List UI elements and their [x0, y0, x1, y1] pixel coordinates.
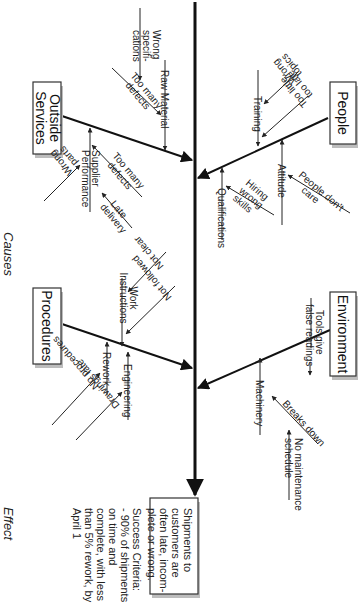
outside-services-label-l2: Services [33, 91, 49, 145]
effect-problem-l4: plete or wrong. [146, 508, 158, 581]
procedures-label: Procedures [39, 290, 55, 362]
engineering-label: Engineering [122, 364, 133, 417]
fishbone-diagram: Outside Services Raw Material Wrong spec… [0, 0, 360, 605]
effect-problem-l3: often late, incom- [158, 508, 170, 593]
branch-environment: Environment Tools give false readings Ma… [198, 292, 358, 511]
success-criteria-l2: - 90% of shipments [119, 508, 131, 603]
success-criteria-l5: than 5% rework, by [83, 508, 95, 603]
people-label: People [335, 91, 351, 135]
causes-label: Causes [1, 232, 16, 277]
effect-section: Shipments to customers are often late, i… [71, 498, 200, 603]
effect-problem-l1: Shipments to [182, 508, 194, 572]
no-maint-label-l2: schedule [283, 438, 294, 478]
work-instructions-label-l2: Instructions [118, 272, 129, 323]
environment-label: Environment [335, 295, 351, 374]
drawings-late-label: Drawings late [74, 357, 122, 411]
effect-label: Effect [1, 507, 16, 542]
branch-procedures: Procedures Work Instructions Not clear N… [33, 234, 192, 440]
qualifications-label: Qualifications [216, 188, 227, 248]
success-criteria-l3: on time and [107, 508, 119, 565]
effect-problem-l2: customers are [170, 508, 182, 578]
success-criteria-l1: Success Criteria: [131, 508, 143, 591]
success-criteria-l6: April 1 [71, 508, 83, 539]
branch-outside-services: Outside Services Raw Material Wrong spec… [33, 8, 192, 235]
success-criteria-l4: complete, with less [95, 508, 107, 601]
supplier-performance-label-l2: Performance [80, 150, 91, 208]
machinery-label: Machinery [254, 380, 265, 426]
wrong-specifications-label-l3: cations [131, 30, 142, 62]
attitude-label: Attitude [276, 164, 287, 198]
tools-label-l2: false readings [304, 304, 315, 366]
training-label: Training [252, 96, 263, 132]
branch-people: People Training Wrong topics Too little,… [198, 51, 358, 248]
